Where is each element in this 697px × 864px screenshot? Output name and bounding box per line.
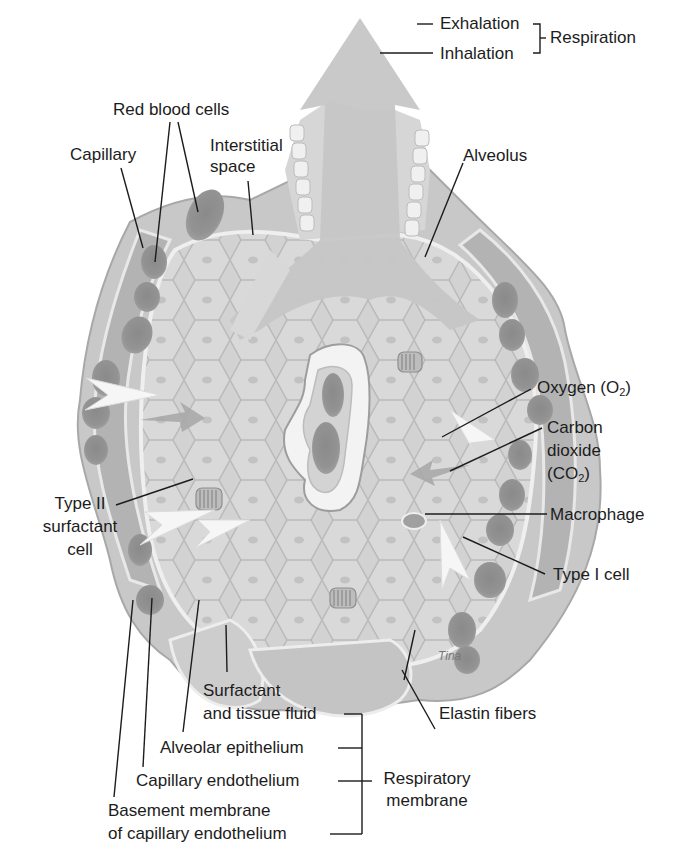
label-type-ii-2: surfactant bbox=[32, 517, 128, 537]
label-type-ii-1: Type II bbox=[32, 494, 128, 514]
label-alveolus: Alveolus bbox=[463, 146, 527, 166]
label-type-i-cell: Type I cell bbox=[553, 565, 630, 585]
alveolus-diagram: Tina bbox=[0, 0, 697, 864]
macrophage bbox=[402, 513, 426, 529]
label-basement-membrane-2: of capillary endothelium bbox=[108, 824, 287, 844]
label-exhalation: Exhalation bbox=[440, 14, 519, 34]
label-type-ii-3: cell bbox=[32, 540, 128, 560]
label-capillary-endothelium: Capillary endothelium bbox=[136, 771, 299, 791]
label-carbon-dioxide-3: (CO2) bbox=[547, 464, 590, 484]
label-capillary: Capillary bbox=[70, 145, 136, 165]
label-interstitial-space-1: Interstitial bbox=[210, 136, 283, 156]
label-elastin-fibers: Elastin fibers bbox=[439, 704, 536, 724]
label-oxygen: Oxygen (O2) bbox=[537, 378, 631, 398]
label-alveolar-epithelium: Alveolar epithelium bbox=[160, 738, 304, 758]
label-respiration: Respiration bbox=[550, 28, 636, 48]
label-surfactant-1: Surfactant bbox=[203, 681, 281, 701]
artist-signature: Tina bbox=[438, 649, 462, 663]
label-red-blood-cells: Red blood cells bbox=[113, 100, 229, 120]
label-carbon-dioxide-1: Carbon bbox=[547, 418, 603, 438]
label-basement-membrane-1: Basement membrane bbox=[108, 801, 271, 821]
label-surfactant-2: and tissue fluid bbox=[203, 704, 316, 724]
label-interstitial-space-2: space bbox=[210, 157, 255, 177]
label-respiratory-membrane-1: Respiratory bbox=[372, 769, 482, 789]
label-carbon-dioxide-2: dioxide bbox=[547, 441, 601, 461]
label-respiratory-membrane-2: membrane bbox=[372, 791, 482, 811]
label-macrophage: Macrophage bbox=[550, 505, 645, 525]
label-inhalation: Inhalation bbox=[440, 44, 514, 64]
